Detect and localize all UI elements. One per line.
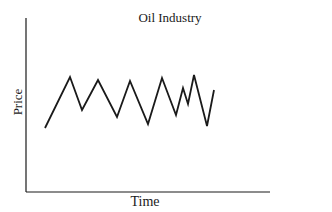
price-line [45, 75, 214, 128]
chart-plot [0, 0, 332, 212]
